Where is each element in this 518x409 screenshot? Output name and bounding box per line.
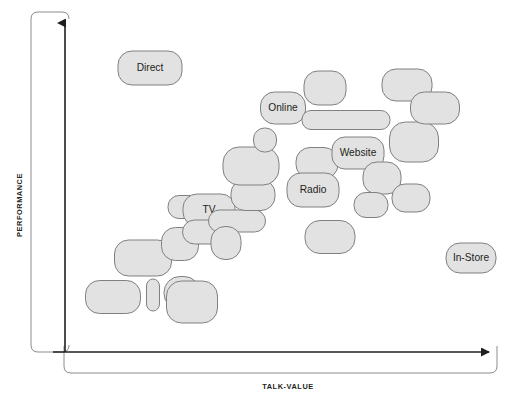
bubble-radio[interactable]: Radio (287, 173, 339, 207)
bubble-unlabeled[interactable] (167, 281, 218, 323)
x-axis-frame (64, 346, 497, 373)
bubble-online[interactable]: Online (261, 92, 306, 124)
bubble-unlabeled[interactable] (305, 221, 355, 254)
bubble-unlabeled[interactable] (223, 147, 279, 185)
bubble-shape (392, 184, 430, 212)
bubble-unlabeled[interactable] (86, 281, 141, 314)
bubble-label: Direct (137, 62, 164, 73)
bubble-shape (302, 111, 390, 130)
bubble-group: DirectTVOnlineRadioWebsiteIn-Store (86, 51, 497, 323)
bubble-label: Radio (300, 184, 327, 195)
bubble-unlabeled[interactable] (254, 128, 277, 152)
y-axis-title: PERFORMANCE (15, 173, 24, 237)
x-axis-title: TALK-VALUE (262, 382, 314, 391)
bubble-unlabeled[interactable] (390, 122, 439, 162)
bubble-direct[interactable]: Direct (118, 51, 182, 85)
bubble-shape (254, 128, 277, 152)
bubble-label: Online (268, 102, 298, 113)
bubble-unlabeled[interactable] (211, 227, 241, 260)
bubble-unlabeled[interactable] (147, 279, 160, 311)
bubble-unlabeled[interactable] (392, 184, 430, 212)
bubble-unlabeled[interactable] (411, 92, 460, 124)
bubble-shape (167, 281, 218, 323)
bubble-unlabeled[interactable] (304, 71, 346, 105)
bubble-shape (211, 227, 241, 260)
bubble-unlabeled[interactable] (302, 111, 390, 130)
bubble-shape (390, 122, 439, 162)
bubble-label: In-Store (453, 252, 490, 263)
chart-svg: PERFORMANCE TALK-VALUE DirectTVOnlineRad… (0, 0, 518, 409)
bubble-unlabeled[interactable] (354, 193, 388, 218)
bubble-shape (304, 71, 346, 105)
bubble-shape (86, 281, 141, 314)
bubble-label: Website (340, 147, 377, 158)
bubble-shape (411, 92, 460, 124)
bubble-in-store[interactable]: In-Store (446, 243, 496, 273)
y-axis-frame (31, 12, 69, 352)
bubble-shape (147, 279, 160, 311)
bubble-shape (354, 193, 388, 218)
bubble-shape (305, 221, 355, 254)
bubble-shape (223, 147, 279, 185)
bubble-chart-canvas: PERFORMANCE TALK-VALUE DirectTVOnlineRad… (0, 0, 518, 409)
